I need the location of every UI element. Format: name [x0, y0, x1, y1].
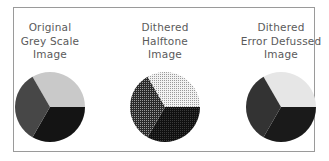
panel-original: Original Grey Scale Image — [0, 0, 108, 161]
panel-error-diffused: Dithered Error Defussed Image — [223, 0, 329, 161]
caption-halftone: Dithered Halftone Image — [107, 21, 223, 62]
caption-line: Dithered — [223, 21, 329, 35]
caption-line: Image — [0, 48, 108, 62]
caption-line: Image — [223, 48, 329, 62]
caption-line: Dithered — [107, 21, 223, 35]
caption-original: Original Grey Scale Image — [0, 21, 108, 62]
caption-line: Image — [107, 48, 223, 62]
caption-line: Original — [0, 21, 108, 35]
caption-line: Error Defussed — [223, 35, 329, 49]
caption-line: Halftone — [107, 35, 223, 49]
pie-error-diffused — [244, 70, 318, 144]
pie-original — [13, 70, 87, 144]
panel-halftone: Dithered Halftone Image — [107, 0, 223, 161]
caption-line: Grey Scale — [0, 35, 108, 49]
pie-halftone — [128, 70, 202, 144]
caption-error-diffused: Dithered Error Defussed Image — [223, 21, 329, 62]
